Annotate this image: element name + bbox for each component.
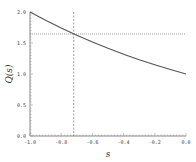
x-tick-label: -0.2	[149, 139, 161, 145]
y-tick-label: 0.5	[17, 102, 26, 108]
x-tick-label: -0.6	[86, 139, 98, 145]
y-tick-label: 1.5	[17, 40, 26, 46]
x-tick-label: 0.0	[181, 139, 190, 145]
y-tick-label: 1.0	[17, 71, 26, 77]
x-tick-label: -1.0	[24, 139, 36, 145]
y-tick-label: 2.0	[17, 9, 26, 15]
series-line	[30, 12, 186, 74]
y-axis-label: Q(s)	[4, 64, 14, 84]
x-tick-label: -0.4	[118, 139, 130, 145]
x-tick-label: -0.8	[55, 139, 67, 145]
x-axis-label: s	[106, 149, 111, 159]
plot-area: 0.00.51.01.52.0-1.0-0.8-0.6-0.4-0.20.0sQ…	[4, 9, 191, 159]
line-chart: 0.00.51.01.52.0-1.0-0.8-0.6-0.4-0.20.0sQ…	[0, 0, 196, 162]
